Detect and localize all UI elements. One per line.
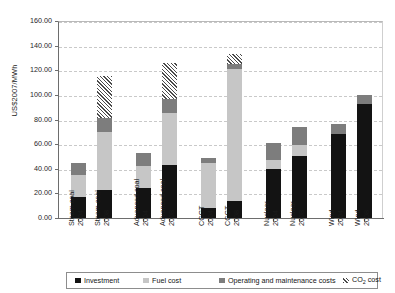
legend-swatch-co2 <box>343 278 349 284</box>
legend-label-fuel: Fuel cost <box>152 276 181 285</box>
y-axis-tick-mark <box>55 120 59 121</box>
x-axis-label-name: Wind <box>354 210 362 226</box>
bar-segment-co2 <box>227 54 242 64</box>
x-axis-label-year: 2004 <box>336 210 344 226</box>
bar-group <box>90 22 120 218</box>
x-axis-label-name: CCGT <box>224 206 232 226</box>
bar-segment-investment <box>357 104 372 219</box>
y-axis-tick-label: 160.00 <box>6 16 52 25</box>
y-axis-tick-mark <box>55 46 59 47</box>
y-axis-tick-label: 40.00 <box>6 164 52 173</box>
y-axis-tick-mark <box>55 218 59 219</box>
y-axis-tick-mark <box>55 169 59 170</box>
legend-item-investment[interactable]: Investment <box>75 276 119 285</box>
y-axis-tick-label: 20.00 <box>6 188 52 197</box>
legend-swatch-om <box>219 278 225 284</box>
legend-swatch-investment <box>75 278 81 284</box>
x-axis-label-year: 2004 <box>206 210 214 226</box>
stacked-bar-chart: US$2007/MWh 0.0020.0040.0060.0080.00100.… <box>0 0 395 293</box>
y-axis-tick-label: 100.00 <box>6 90 52 99</box>
y-axis-tick-mark <box>55 144 59 145</box>
y-axis-tick-label: 120.00 <box>6 65 52 74</box>
y-axis-tick-mark <box>55 21 59 22</box>
bar-segment-fuel <box>201 163 216 209</box>
x-axis-label-name: CCGT <box>198 206 206 226</box>
x-axis-label-name: Nuclear <box>289 201 297 226</box>
x-axis-label-year: 2008 <box>102 210 110 226</box>
bar-group <box>220 22 250 218</box>
bar-segment-om <box>71 163 86 175</box>
y-axis-tick-label: 80.00 <box>6 115 52 124</box>
x-axis-label-year: 2008 <box>297 210 305 226</box>
legend-label-investment: Investment <box>84 276 119 285</box>
y-axis-tick-mark <box>55 70 59 71</box>
bar-segment-fuel <box>97 132 112 190</box>
legend-item-co2[interactable]: CO2 cost <box>343 275 381 285</box>
chart-legend: InvestmentFuel costOperating and mainten… <box>66 272 378 289</box>
bar-group <box>285 22 315 218</box>
x-axis-label-name: Advanced coal <box>159 179 167 226</box>
y-axis-tick-label: 60.00 <box>6 139 52 148</box>
y-axis-tick-label: 0.00 <box>6 213 52 222</box>
stacked-bar[interactable] <box>331 124 346 218</box>
legend-swatch-fuel <box>143 278 149 284</box>
x-axis-label-year: 2008 <box>167 210 175 226</box>
bar-segment-om <box>97 118 112 132</box>
legend-item-om[interactable]: Operating and maintenance costs <box>219 276 335 285</box>
y-axis-tick-label: 140.00 <box>6 41 52 50</box>
bar-segment-investment <box>331 134 346 218</box>
y-axis-tick-mark <box>55 193 59 194</box>
bar-segment-fuel <box>162 113 177 165</box>
bar-segment-fuel <box>292 145 307 156</box>
x-axis-label-name: Steam coal <box>68 190 76 226</box>
bar-segment-fuel <box>266 160 281 169</box>
stacked-bar[interactable] <box>227 54 242 218</box>
bar-segment-om <box>292 127 307 145</box>
x-axis-label-name: Nuclear <box>263 201 271 226</box>
bar-segment-co2 <box>162 63 177 99</box>
legend-label-om: Operating and maintenance costs <box>228 276 335 285</box>
legend-label-co2: CO2 cost <box>352 275 381 285</box>
stacked-bar[interactable] <box>357 95 372 218</box>
bar-segment-om <box>357 95 372 104</box>
x-axis-label-year: 2008 <box>232 210 240 226</box>
bar-segment-om <box>136 153 151 167</box>
bar-segment-om <box>266 143 281 160</box>
x-axis-label-year: 2004 <box>76 210 84 226</box>
legend-item-fuel[interactable]: Fuel cost <box>143 276 181 285</box>
y-axis-tick-mark <box>55 95 59 96</box>
x-axis-label-year: 2008 <box>362 210 370 226</box>
bar-segment-om <box>331 124 346 134</box>
x-axis-label-name: Advanced coal <box>133 179 141 226</box>
bar-group <box>350 22 380 218</box>
bar-segment-fuel <box>227 69 242 201</box>
x-axis-label-year: 2004 <box>271 210 279 226</box>
plot-area <box>58 21 383 218</box>
bar-segment-om <box>162 99 177 114</box>
x-axis-label-name: Steam coal <box>94 190 102 226</box>
x-axis-label-year: 2004 <box>141 210 149 226</box>
x-axis-label-name: Wind <box>328 210 336 226</box>
bar-segment-co2 <box>97 76 112 118</box>
